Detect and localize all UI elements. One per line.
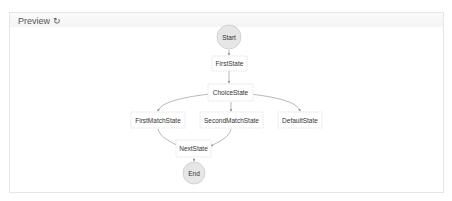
node-default-state[interactable]: DefaultState xyxy=(278,112,322,128)
node-label: SecondMatchState xyxy=(204,117,259,124)
node-end[interactable]: End xyxy=(183,162,205,184)
edge-choice-default xyxy=(250,94,300,111)
node-first-state[interactable]: FirstState xyxy=(212,56,247,71)
node-label: FirstMatchState xyxy=(135,117,181,124)
node-second-match-state[interactable]: SecondMatchState xyxy=(200,112,263,128)
edge-firstmatch-next xyxy=(158,129,178,146)
edge-secondmatch-next xyxy=(211,129,231,146)
node-label: Start xyxy=(222,34,236,41)
node-start[interactable]: Start xyxy=(217,25,241,49)
node-label: ChoiceState xyxy=(213,89,249,96)
node-label: FirstState xyxy=(216,60,244,67)
node-choice-state[interactable]: ChoiceState xyxy=(208,84,253,101)
node-label: End xyxy=(188,170,200,177)
node-next-state[interactable]: NextState xyxy=(176,140,211,157)
node-first-match-state[interactable]: FirstMatchState xyxy=(131,112,185,128)
state-machine-graph: Start FirstState ChoiceState FirstMatchS… xyxy=(0,0,452,201)
edge-choice-firstmatch xyxy=(158,94,210,111)
node-label: NextState xyxy=(179,145,208,152)
node-label: DefaultState xyxy=(282,117,318,124)
